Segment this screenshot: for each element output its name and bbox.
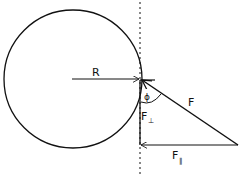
parallel-subscript: ‖ [179,157,183,165]
force-label: F [188,96,194,109]
perpendicular-subscript: ⊥ [148,117,154,125]
radius-label: R [92,66,100,79]
perpendicular-label: F [141,110,147,123]
force-vector [142,80,238,145]
torque-diagram: R F ϕ F ⊥ F ‖ [0,0,240,174]
parallel-label: F [172,149,178,162]
angle-label: ϕ [144,92,150,102]
